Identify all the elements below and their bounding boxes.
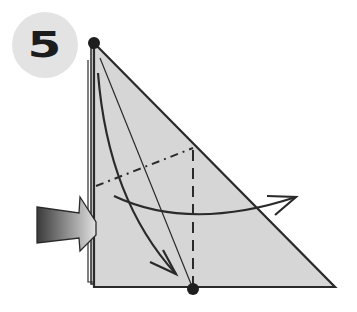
origami-diagram [0, 0, 357, 312]
top-corner-dot [88, 37, 100, 49]
paper-triangle [94, 43, 335, 287]
bottom-point-dot [187, 283, 199, 295]
push-arrow-icon [37, 197, 96, 251]
